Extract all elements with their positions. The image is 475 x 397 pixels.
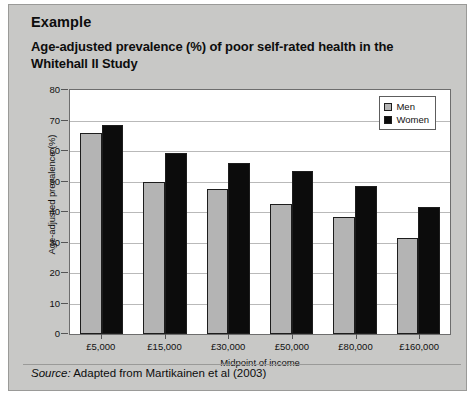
bar-women-3: [228, 163, 250, 334]
bar-men-5: [333, 217, 355, 334]
example-heading: Example: [31, 14, 91, 30]
y-tick-mark: [61, 303, 68, 304]
x-tick-mark: [101, 334, 102, 339]
y-axis-ticks: 01020304050607080: [23, 81, 69, 341]
y-tick-label: 10: [26, 297, 60, 308]
source-text: Adapted from Martikainen et al (2003): [71, 367, 267, 379]
bar-women-1: [102, 125, 124, 334]
legend-swatch-icon: [384, 103, 392, 111]
x-tick-label: £50,000: [275, 341, 309, 352]
y-tick-label: 70: [26, 114, 60, 125]
x-tick-mark: [165, 334, 166, 339]
y-tick-label: 60: [26, 145, 60, 156]
bar-women-5: [355, 186, 377, 334]
source-divider: [23, 364, 461, 365]
chart-figure: Age-adjusted prevalence (%) 010203040506…: [23, 81, 461, 361]
y-tick-mark: [61, 333, 68, 334]
example-card: Example Age-adjusted prevalence (%) of p…: [8, 4, 467, 391]
y-tick-label: 50: [26, 175, 60, 186]
y-tick-label: 20: [26, 267, 60, 278]
plot-area: MenWomen: [69, 89, 451, 335]
y-tick-label: 40: [26, 206, 60, 217]
x-tick-label: £15,000: [147, 341, 181, 352]
y-tick-mark: [61, 89, 68, 90]
x-tick-mark: [228, 334, 229, 339]
y-tick-label: 0: [26, 328, 60, 339]
y-tick-mark: [61, 120, 68, 121]
legend-item-women: Women: [384, 113, 429, 126]
x-tick-mark: [356, 334, 357, 339]
legend-item-men: Men: [384, 100, 429, 113]
bar-women-6: [418, 207, 440, 334]
x-tick-mark: [292, 334, 293, 339]
source-label: Source:: [31, 367, 71, 379]
bar-women-2: [165, 153, 187, 334]
y-tick-mark: [61, 211, 68, 212]
bar-men-1: [80, 133, 102, 334]
y-tick-mark: [61, 272, 68, 273]
x-tick-label: £5,000: [86, 341, 115, 352]
bar-men-2: [143, 182, 165, 335]
bar-men-6: [397, 238, 419, 334]
chart-legend: MenWomen: [379, 96, 436, 130]
bar-women-4: [292, 171, 314, 334]
bar-men-4: [270, 204, 292, 334]
y-tick-mark: [61, 150, 68, 151]
x-tick-label: £80,000: [338, 341, 372, 352]
y-tick-label: 30: [26, 236, 60, 247]
legend-label: Men: [396, 101, 414, 112]
x-tick-label: £160,000: [399, 341, 439, 352]
y-tick-label: 80: [26, 84, 60, 95]
legend-swatch-icon: [384, 116, 392, 124]
x-tick-mark: [419, 334, 420, 339]
bar-men-3: [207, 189, 229, 334]
y-tick-mark: [61, 181, 68, 182]
y-tick-mark: [61, 242, 68, 243]
chart-title: Age-adjusted prevalence (%) of poor self…: [31, 38, 443, 72]
x-tick-label: £30,000: [211, 341, 245, 352]
legend-label: Women: [396, 114, 429, 125]
source-caption: Source: Adapted from Martikainen et al (…: [31, 367, 266, 379]
